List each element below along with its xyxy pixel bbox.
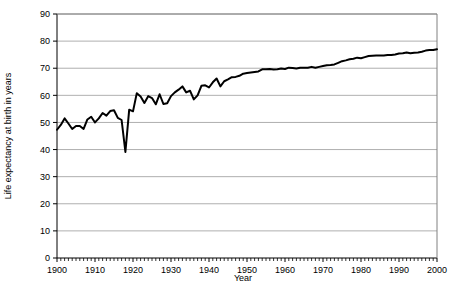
y-tick-label: 20 [40, 199, 50, 209]
x-tick-label: 1990 [389, 265, 409, 275]
x-tick-label: 1920 [123, 265, 143, 275]
chart-canvas: 0102030405060708090 19001910192019301940… [0, 0, 460, 295]
y-tick-label: 10 [40, 226, 50, 236]
x-axis-title: Year [234, 273, 252, 283]
y-tick-label: 40 [40, 145, 50, 155]
x-tick-label: 1970 [313, 265, 333, 275]
y-tick-label: 0 [45, 253, 50, 263]
x-tick-label: 1960 [275, 265, 295, 275]
y-axis-title: Life expectancy at birth in years [3, 72, 13, 199]
y-tick-label: 80 [40, 36, 50, 46]
x-tick-label: 1940 [199, 265, 219, 275]
x-tick-label: 1980 [351, 265, 371, 275]
y-tick-label: 60 [40, 91, 50, 101]
chart-background [0, 0, 460, 295]
x-tick-label: 1900 [47, 265, 67, 275]
x-tick-label: 2000 [427, 265, 447, 275]
x-tick-label: 1930 [161, 265, 181, 275]
y-tick-label: 50 [40, 118, 50, 128]
life-expectancy-chart-figure: 0102030405060708090 19001910192019301940… [0, 0, 460, 295]
y-tick-label: 70 [40, 63, 50, 73]
y-tick-label: 90 [40, 9, 50, 19]
x-tick-label: 1910 [85, 265, 105, 275]
y-tick-label: 30 [40, 172, 50, 182]
